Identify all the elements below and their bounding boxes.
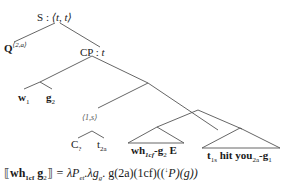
q-node: Q⟨2,a⟩ (4, 43, 27, 54)
g-subscript: 2 (163, 151, 167, 159)
g-node: g2 (46, 92, 55, 103)
wh-word: wh (131, 144, 145, 156)
you-word: you (235, 149, 252, 161)
wh-subscript: 1cf (145, 151, 154, 159)
t-subscript: 1s (211, 156, 217, 164)
c-node: C? (71, 139, 81, 150)
formula-wh-sub: 1cf (25, 174, 34, 182)
triangle-left-label: wh1cf-g2 E (131, 145, 177, 156)
formula-wh: wh (10, 166, 25, 180)
type-colon: : (46, 11, 49, 23)
formula-lambda-p: = λP (53, 166, 80, 180)
trace-node: t2a (97, 139, 107, 150)
c-subscript: ? (78, 145, 81, 153)
root-node: S : ⟨t, t⟩ (37, 12, 72, 23)
type-colon: : (96, 46, 99, 58)
you-subscript: 2a (252, 156, 259, 164)
e-word: E (169, 144, 176, 156)
q-superscript: ⟨2,a⟩ (13, 41, 27, 49)
g-subscript: 2 (52, 98, 56, 106)
root-type: ⟨t, t⟩ (52, 11, 72, 23)
w-label: w (18, 91, 26, 103)
g-subscript: 1 (268, 156, 272, 164)
root-category: S (37, 11, 43, 23)
trace-subscript: 2a (100, 145, 107, 153)
w-subscript: 1 (26, 98, 30, 106)
formula-body: . g(2a)(1cf)(( (102, 166, 165, 180)
index-label: ⟨1,s⟩ (82, 113, 97, 122)
q-label: Q (4, 42, 13, 54)
cp-type: t (102, 46, 105, 58)
verb-word: hit (220, 149, 233, 161)
formula-lambda-g: .λg (84, 166, 98, 180)
formula-tail: P)(g)) (168, 166, 197, 180)
w-node: w1 (18, 92, 29, 103)
denotation-formula: ⟦wh1cf g2⟧ = λPet.λgg. g(2a)(1cf)((↓P)(g… (4, 166, 198, 181)
cp-node: CP : t (80, 47, 105, 58)
cp-category: CP (80, 46, 93, 58)
index-node: ⟨1,s⟩ (82, 112, 97, 123)
triangle-right-label: t1s hit you2a-g1 (207, 150, 272, 161)
